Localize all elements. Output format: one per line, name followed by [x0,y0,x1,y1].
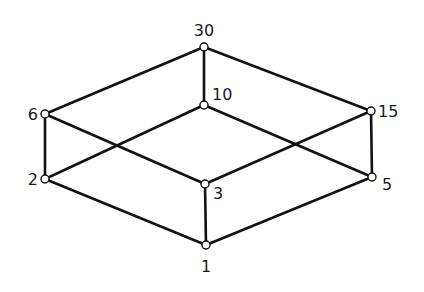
edge-30-6 [45,47,204,114]
node-label-5: 5 [382,175,392,194]
edge-5-1 [206,177,372,245]
edge-6-3 [45,114,205,184]
node-label-15: 15 [378,102,398,121]
edge-3-1 [205,184,206,245]
node-2 [41,175,49,183]
node-30 [200,43,208,51]
edge-15-5 [371,111,372,177]
node-6 [41,110,49,118]
divisor-lattice-diagram: 30106152351 [0,0,424,292]
node-label-1: 1 [201,257,211,276]
edge-10-2 [45,105,204,179]
edges-group [45,47,372,245]
edge-2-1 [45,179,206,245]
node-label-3: 3 [213,184,223,203]
edge-15-3 [205,111,371,184]
node-label-10: 10 [212,85,232,104]
nodes-group [41,43,376,249]
edge-10-5 [204,105,372,177]
node-15 [367,107,375,115]
labels-group: 30106152351 [28,21,399,276]
node-5 [368,173,376,181]
node-label-30: 30 [194,21,214,40]
node-3 [201,180,209,188]
node-label-2: 2 [28,170,38,189]
node-10 [200,101,208,109]
node-label-6: 6 [28,105,38,124]
node-1 [202,241,210,249]
